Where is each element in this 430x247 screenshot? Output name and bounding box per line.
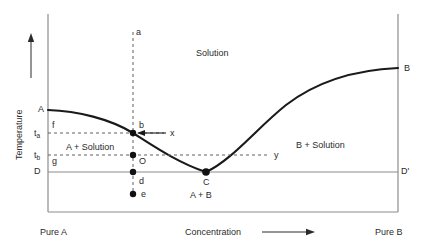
y-axis-arrow bbox=[28, 33, 34, 78]
marker-point-C bbox=[202, 168, 210, 176]
point-label-b: b bbox=[139, 120, 144, 130]
plot-frame bbox=[48, 14, 398, 212]
region-label-solution: Solution bbox=[196, 48, 229, 58]
temperature-tick-tb: tb bbox=[34, 150, 40, 161]
liquidus-curve bbox=[48, 68, 398, 172]
marker-point-d bbox=[130, 169, 136, 175]
point-label-Dprime: D' bbox=[401, 166, 409, 176]
x-axis-right-end-label: Pure B bbox=[375, 227, 403, 237]
point-label-g: g bbox=[52, 156, 57, 166]
point-label-y: y bbox=[274, 150, 279, 160]
temperature-tick-ta: ta bbox=[34, 128, 40, 139]
y-axis-title: Temperature bbox=[14, 109, 24, 160]
marker-point-b bbox=[130, 130, 136, 136]
x-axis-left-end-label: Pure A bbox=[40, 227, 67, 237]
x-axis-title: Concentration bbox=[185, 227, 241, 237]
marker-point-e bbox=[130, 191, 136, 197]
x-axis-arrow bbox=[262, 229, 315, 235]
phase-diagram: Temperature Concentration Pure A Pure B … bbox=[0, 0, 430, 247]
temperature-tick-tb-sub: b bbox=[37, 154, 41, 161]
point-label-O: O bbox=[139, 156, 146, 166]
region-label-a-plus-b: A + B bbox=[190, 190, 212, 200]
marker-point-O bbox=[130, 152, 136, 158]
point-label-f: f bbox=[52, 120, 55, 130]
point-label-e: e bbox=[141, 189, 146, 199]
point-label-a: a bbox=[136, 27, 141, 37]
temperature-tick-ta-sub: a bbox=[37, 132, 41, 139]
point-label-D: D bbox=[34, 166, 41, 176]
point-label-C: C bbox=[203, 177, 210, 187]
region-label-a-solution: A + Solution bbox=[66, 142, 114, 152]
point-label-d: d bbox=[139, 176, 144, 186]
region-label-b-solution: B + Solution bbox=[296, 140, 345, 150]
point-label-A: A bbox=[38, 104, 44, 114]
arrow-x-to-b bbox=[137, 130, 166, 136]
point-label-B: B bbox=[404, 63, 410, 73]
phase-diagram-canvas bbox=[0, 0, 430, 247]
point-label-x: x bbox=[170, 128, 175, 138]
